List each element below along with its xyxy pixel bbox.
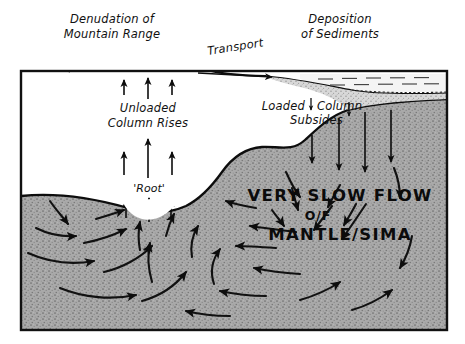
denudation-label-line2: Mountain Range — [64, 27, 161, 41]
flow-label-line3: MANTLE/SIMA — [268, 225, 412, 244]
isostasy-diagram: Denudation of Mountain Range Transport D… — [0, 0, 465, 344]
deposition-label-line1: Deposition — [308, 12, 371, 26]
denudation-label-line1: Denudation of — [70, 12, 156, 26]
figure-container: Denudation of Mountain Range Transport D… — [0, 0, 465, 344]
deposition-label-line2: of Sediments — [301, 27, 379, 41]
unloaded-label-line1: Unloaded — [120, 101, 177, 115]
root-label: 'Root' — [133, 182, 164, 195]
loaded-label-part-a: Loaded — [262, 99, 306, 113]
loaded-label-part-b: Column — [317, 99, 362, 113]
loaded-label-line2: Subsides — [290, 113, 343, 127]
flow-label-line2: O/F — [305, 208, 332, 223]
flow-label-line1: VERY SLOW FLOW — [248, 186, 433, 205]
unloaded-label-line2: Column Rises — [108, 116, 188, 130]
